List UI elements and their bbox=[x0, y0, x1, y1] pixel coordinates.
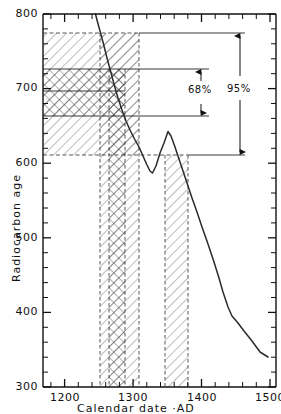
confidence-68-label: 68% bbox=[188, 84, 212, 95]
y-tick-label-800: 800 bbox=[4, 7, 38, 20]
confidence-band-95-vertical-right bbox=[165, 155, 188, 387]
confidence-band-68-vertical bbox=[109, 69, 125, 387]
top-axis-ticks bbox=[51, 14, 270, 22]
confidence-95-label: 95% bbox=[227, 83, 251, 94]
y-axis-title: Radiocarbon age bbox=[10, 174, 23, 282]
x-axis-title: Calendar date ·AD bbox=[77, 402, 195, 414]
y-tick-label-600: 600 bbox=[4, 156, 38, 169]
y-tick-label-700: 700 bbox=[4, 81, 38, 94]
x-tick-label-1500: 1500 bbox=[245, 391, 281, 404]
y-tick-label-400: 400 bbox=[4, 305, 38, 318]
radiocarbon-calibration-figure: 800 700 600 500 400 300 1200 1300 1400 1… bbox=[0, 0, 281, 414]
calibration-plot-canvas bbox=[0, 0, 281, 414]
x-axis-ticks bbox=[51, 379, 270, 387]
y-tick-label-300: 300 bbox=[4, 380, 38, 393]
right-axis-ticks bbox=[268, 14, 276, 387]
